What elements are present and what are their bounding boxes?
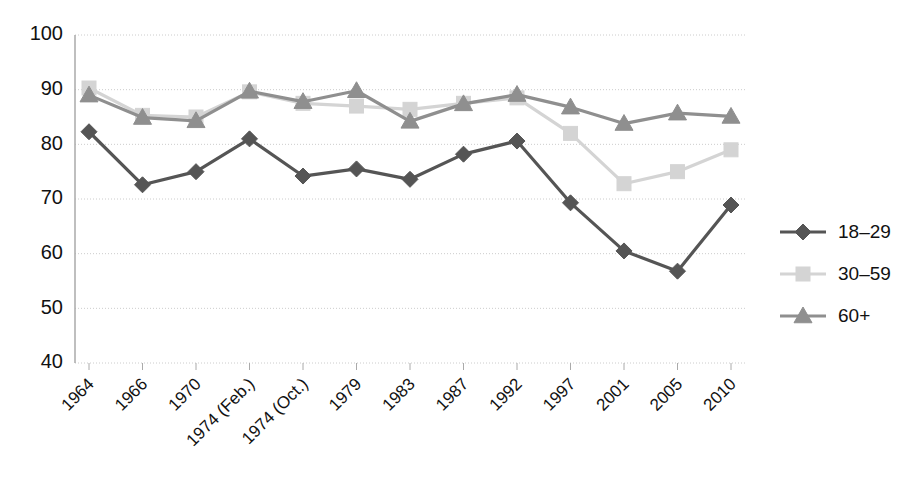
legend-label: 18–29 bbox=[838, 221, 891, 242]
square-marker bbox=[617, 177, 631, 191]
square-marker bbox=[671, 165, 685, 179]
line-chart: 405060708090100 1964196619701974 (Feb.)1… bbox=[0, 0, 911, 485]
square-marker bbox=[796, 267, 810, 281]
legend-label: 60+ bbox=[838, 305, 870, 326]
legend-label: 30–59 bbox=[838, 263, 891, 284]
y-tick-label: 70 bbox=[41, 186, 63, 208]
y-tick-label: 90 bbox=[41, 77, 63, 99]
square-marker bbox=[350, 99, 364, 113]
square-marker bbox=[724, 143, 738, 157]
square-marker bbox=[564, 126, 578, 140]
y-tick-label: 60 bbox=[41, 241, 63, 263]
chart-background bbox=[0, 0, 911, 485]
chart-container: 405060708090100 1964196619701974 (Feb.)1… bbox=[0, 0, 911, 485]
y-tick-label: 50 bbox=[41, 296, 63, 318]
y-tick-label: 80 bbox=[41, 132, 63, 154]
y-tick-label: 40 bbox=[41, 350, 63, 372]
y-tick-label: 100 bbox=[30, 22, 63, 44]
